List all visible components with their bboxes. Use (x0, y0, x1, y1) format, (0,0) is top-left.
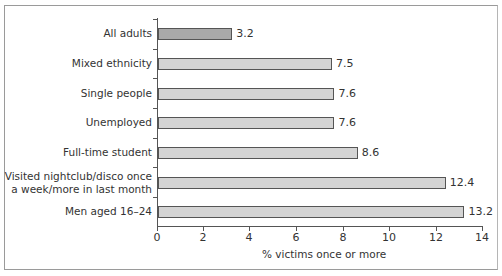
category-label-text: Unemployed (86, 116, 152, 128)
y-tick (153, 197, 158, 198)
y-tick (153, 108, 158, 109)
value-label: 12.4 (450, 176, 475, 189)
x-tick-label: 8 (340, 231, 347, 244)
bar (158, 177, 446, 189)
y-tick (153, 138, 158, 139)
x-axis-title: % victims once or more (262, 248, 386, 260)
x-tick-label: 6 (293, 231, 300, 244)
bar (158, 206, 464, 218)
y-tick (153, 49, 158, 50)
x-tick-label: 0 (154, 231, 161, 244)
bar (158, 117, 334, 129)
category-label: All adults (103, 27, 152, 40)
category-label-text: Visited nightclub/disco once (5, 170, 152, 182)
bar (158, 147, 358, 159)
category-label-text: Full-time student (63, 146, 152, 158)
category-label: Full-time student (63, 146, 152, 159)
bar (158, 88, 334, 100)
x-tick-label: 12 (429, 231, 443, 244)
category-label-text: Single people (81, 87, 152, 99)
category-label-text: Mixed ethnicity (72, 57, 152, 69)
category-label: Visited nightclub/disco oncea week/more … (5, 170, 152, 196)
category-label: Men aged 16–24 (65, 205, 152, 218)
value-label: 3.2 (236, 27, 254, 40)
y-tick (153, 78, 158, 79)
bar (158, 28, 232, 40)
value-label: 7.6 (338, 116, 356, 129)
value-label: 7.5 (336, 57, 354, 70)
category-label-text: Men aged 16–24 (65, 205, 152, 217)
y-tick (153, 167, 158, 168)
x-tick-label: 14 (475, 231, 489, 244)
category-label: Mixed ethnicity (72, 57, 152, 70)
value-label: 8.6 (362, 146, 380, 159)
x-tick-label: 4 (246, 231, 253, 244)
category-label: Single people (81, 87, 152, 100)
x-axis (157, 226, 483, 227)
y-tick (153, 19, 158, 20)
bar (158, 58, 332, 70)
value-label: 13.2 (468, 205, 493, 218)
category-label-text: a week/more in last month (11, 183, 152, 195)
category-label-text: All adults (103, 27, 152, 39)
x-tick-label: 10 (382, 231, 396, 244)
x-tick-label: 2 (200, 231, 207, 244)
value-label: 7.6 (338, 87, 356, 100)
category-label: Unemployed (86, 116, 152, 129)
